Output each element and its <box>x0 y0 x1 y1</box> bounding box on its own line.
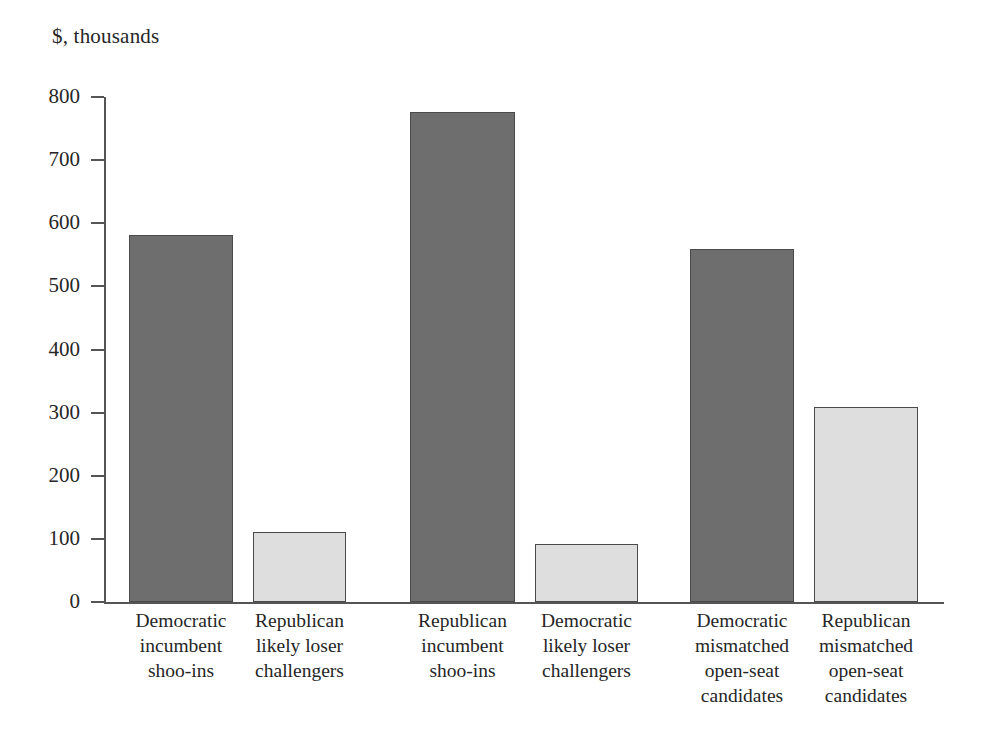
y-axis-tick-label: 600 <box>49 212 81 233</box>
y-axis-tick-label: 400 <box>49 339 81 360</box>
y-axis-tick <box>91 222 104 224</box>
x-axis-category-label: Democraticlikely loserchallengers <box>507 608 667 683</box>
y-axis-tick-label: 0 <box>70 591 81 612</box>
plot-area: 8007006005004003002001000 <box>104 97 944 602</box>
category-label-line: likely loser <box>507 633 667 658</box>
x-axis-category-labels: Democraticincumbentshoo-insRepublicanlik… <box>104 608 944 728</box>
y-axis-tick-label: 100 <box>49 528 81 549</box>
category-label-line: likely loser <box>220 633 380 658</box>
category-label-line: Republican <box>786 608 946 633</box>
category-label-line: challengers <box>507 658 667 683</box>
y-axis-tick <box>91 412 104 414</box>
chart-axis-unit-title: $, thousands <box>52 24 159 49</box>
y-axis-tick-labels: 8007006005004003002001000 <box>0 97 80 602</box>
category-label-line: open-seat <box>786 658 946 683</box>
x-axis-line <box>104 602 944 604</box>
y-axis-tick-label: 200 <box>49 465 81 486</box>
y-axis-line <box>104 97 106 602</box>
y-axis-tick-label: 800 <box>49 86 81 107</box>
y-axis-tick <box>91 96 104 98</box>
y-axis-tick <box>91 601 104 603</box>
y-axis-tick <box>91 475 104 477</box>
category-label-line: candidates <box>786 683 946 708</box>
y-axis-tick <box>91 159 104 161</box>
y-axis-tick-label: 700 <box>49 149 81 170</box>
category-label-line: mismatched <box>786 633 946 658</box>
x-axis-category-label: Republicanmismatchedopen-seatcandidates <box>786 608 946 708</box>
category-label-line: challengers <box>220 658 380 683</box>
bar <box>253 532 346 602</box>
y-axis-tick <box>91 349 104 351</box>
x-axis-category-label: Republicanlikely loserchallengers <box>220 608 380 683</box>
bar <box>690 249 794 603</box>
bar <box>410 112 515 602</box>
y-axis-tick <box>91 538 104 540</box>
y-axis-tick <box>91 285 104 287</box>
category-label-line: Republican <box>220 608 380 633</box>
bar <box>535 544 638 602</box>
bar <box>814 407 918 602</box>
bar <box>129 235 233 602</box>
category-label-line: Democratic <box>507 608 667 633</box>
y-axis-tick-label: 300 <box>49 402 81 423</box>
y-axis-tick-label: 500 <box>49 275 81 296</box>
